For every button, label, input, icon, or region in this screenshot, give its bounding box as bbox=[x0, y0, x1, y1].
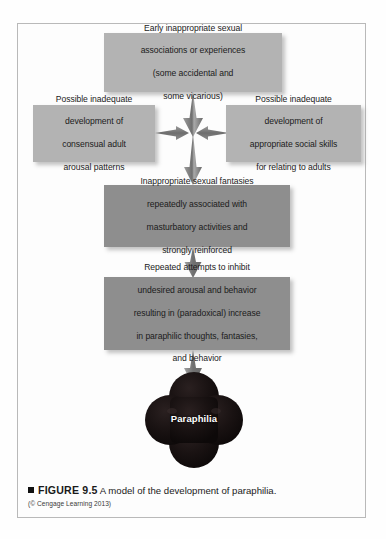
flow-box-social-skills: Possible inadequate development of appro… bbox=[226, 105, 361, 162]
flow-box-repeated-attempts: Repeated attempts to inhibit undesired a… bbox=[104, 277, 290, 350]
flow-box-text: Repeated attempts to inhibit undesired a… bbox=[108, 262, 286, 365]
figure-page: Paraphilia Early inappropriate sexual as… bbox=[0, 0, 386, 539]
paraphilia-label: Paraphilia bbox=[142, 413, 246, 424]
line: for relating to adults bbox=[230, 162, 357, 173]
line: masturbatory activities and bbox=[108, 222, 286, 233]
line: Inappropriate sexual fantasies bbox=[108, 176, 286, 187]
flow-box-text: Early inappropriate sexual associations … bbox=[108, 23, 278, 103]
line: associations or experiences bbox=[108, 45, 278, 56]
line: Possible inadequate bbox=[230, 94, 357, 105]
line: consensual adult bbox=[37, 139, 151, 150]
flow-box-text: Possible inadequate development of appro… bbox=[230, 94, 357, 174]
line: (some accidental and bbox=[108, 68, 278, 79]
line: strongly reinforced bbox=[108, 245, 286, 256]
line: resulting in (paradoxical) increase bbox=[108, 308, 286, 319]
line: development of bbox=[37, 116, 151, 127]
figure-caption: FIGURE 9.5 A model of the development of… bbox=[28, 484, 358, 497]
line: and behavior bbox=[108, 353, 286, 364]
line: repeatedly associated with bbox=[108, 199, 286, 210]
flow-box-text: Inappropriate sexual fantasies repeatedl… bbox=[108, 176, 286, 256]
line: Possible inadequate bbox=[37, 94, 151, 105]
square-bullet-icon bbox=[28, 487, 34, 493]
line: Early inappropriate sexual bbox=[108, 23, 278, 34]
flow-box-fantasies-reinforced: Inappropriate sexual fantasies repeatedl… bbox=[104, 185, 290, 247]
paraphilia-node: Paraphilia bbox=[142, 367, 246, 475]
flow-box-text: Possible inadequate development of conse… bbox=[37, 94, 151, 174]
figure-caption-text: A model of the development of paraphilia… bbox=[98, 485, 277, 496]
flow-box-early-experiences: Early inappropriate sexual associations … bbox=[104, 33, 282, 92]
figure-number: FIGURE 9.5 bbox=[38, 484, 98, 496]
arrow-right-to-center bbox=[196, 126, 229, 140]
figure-frame: Paraphilia Early inappropriate sexual as… bbox=[17, 23, 366, 518]
figure-credit: (© Cengage Learning 2013) bbox=[28, 500, 111, 507]
flow-box-consensual-arousal: Possible inadequate development of conse… bbox=[33, 105, 155, 162]
arrow-left-to-center bbox=[155, 126, 189, 140]
line: development of bbox=[230, 116, 357, 127]
line: Repeated attempts to inhibit bbox=[108, 262, 286, 273]
line: in paraphilic thoughts, fantasies, bbox=[108, 331, 286, 342]
line: arousal patterns bbox=[37, 162, 151, 173]
line: appropriate social skills bbox=[230, 139, 357, 150]
line: undesired arousal and behavior bbox=[108, 285, 286, 296]
